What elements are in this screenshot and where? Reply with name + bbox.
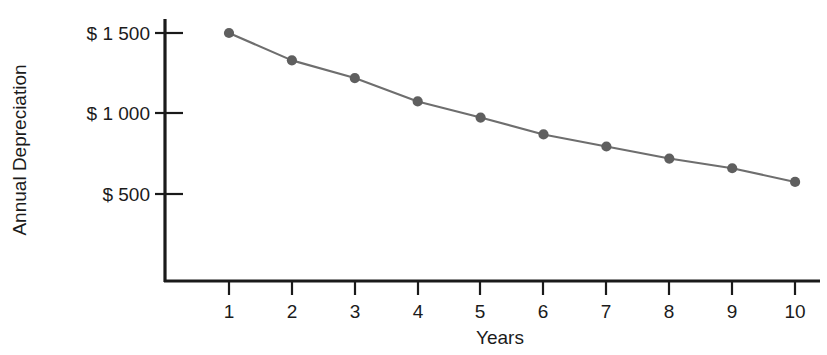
series-markers [224,28,800,187]
data-point [664,153,674,163]
data-point [287,55,297,65]
y-tick-label-1000: $ 1 000 [87,103,150,124]
data-point [601,141,611,151]
data-point [727,163,737,173]
x-tick-label-6: 6 [538,301,549,322]
data-point [790,177,800,187]
x-tick-label-9: 9 [727,301,738,322]
x-tick-label-3: 3 [350,301,361,322]
data-point [413,96,423,106]
x-tick-label-10: 10 [784,301,805,322]
y-tick-label-500: $ 500 [102,184,150,205]
x-tick-label-1: 1 [224,301,235,322]
data-point [224,28,234,38]
y-tick-label-1500: $ 1 500 [87,23,150,44]
data-point [538,129,548,139]
data-point [350,73,360,83]
depreciation-line-chart: Annual Depreciation $ 1 500 $ 1 000 $ 50… [0,0,827,355]
x-tick-label-2: 2 [287,301,298,322]
x-tick-label-5: 5 [475,301,486,322]
chart-canvas: Annual Depreciation $ 1 500 $ 1 000 $ 50… [0,0,827,355]
y-axis-title: Annual Depreciation [9,64,30,235]
x-tick-label-8: 8 [664,301,675,322]
x-axis-title: Years [476,327,524,348]
x-tick-label-7: 7 [601,301,612,322]
x-tick-label-4: 4 [413,301,424,322]
series-line-annual-depreciation [229,33,795,182]
data-point [476,112,486,122]
